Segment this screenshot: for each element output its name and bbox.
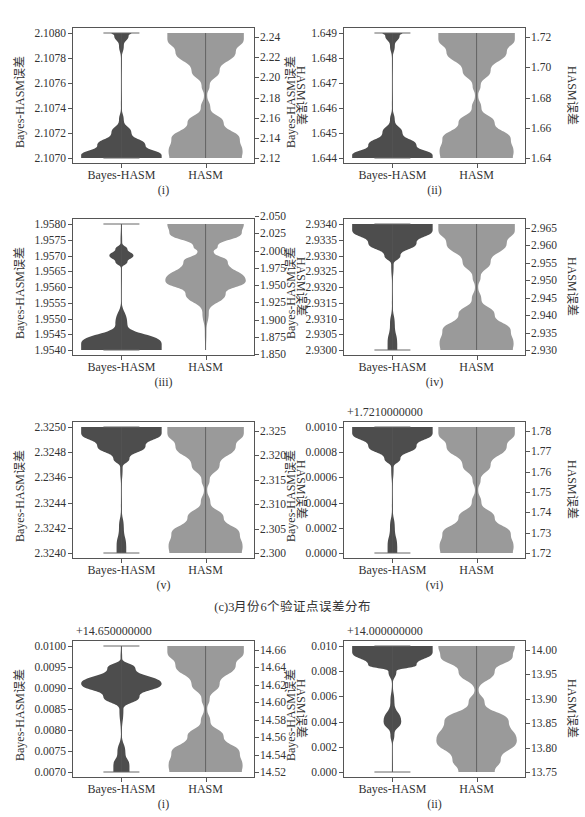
panel-label: (ii) <box>427 797 442 812</box>
figure-caption: (c)3月份6个验证点误差分布 <box>0 596 585 615</box>
x-category-label: Bayes-HASM <box>358 782 426 797</box>
violin-plot <box>0 0 585 817</box>
x-category-label: HASM <box>459 782 494 797</box>
